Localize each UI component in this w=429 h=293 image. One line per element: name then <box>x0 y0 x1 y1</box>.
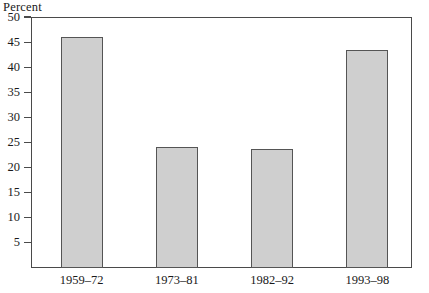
tick-mark <box>24 242 31 243</box>
tick-mark <box>24 92 31 93</box>
x-axis-tick-label: 1993–98 <box>307 272 427 289</box>
tick-mark <box>24 142 31 143</box>
tick-mark <box>24 42 31 43</box>
tick-mark <box>24 117 31 118</box>
y-axis-tick-label: 30 <box>8 109 21 126</box>
y-axis-tick-label: 20 <box>8 159 21 176</box>
y-axis-tick-label: 5 <box>14 234 20 251</box>
y-axis-tick-label: 35 <box>8 84 21 101</box>
y-axis-tick-label: 15 <box>8 184 21 201</box>
y-axis-tick-label: 50 <box>8 9 21 26</box>
y-axis-tick-label: 45 <box>8 34 21 51</box>
tick-mark <box>24 192 31 193</box>
bar-chart: Percent 5101520253035404550 1959–721973–… <box>0 0 429 293</box>
tick-mark <box>24 16 31 17</box>
y-axis-tick-label: 40 <box>8 59 21 76</box>
tick-mark <box>24 67 31 68</box>
y-axis-tick-label: 25 <box>8 134 21 151</box>
bar <box>156 147 198 268</box>
bar <box>251 149 293 268</box>
tick-mark <box>24 167 31 168</box>
y-axis-tick-label: 10 <box>8 209 21 226</box>
bar <box>61 37 103 268</box>
bar <box>346 50 388 268</box>
tick-mark <box>24 217 31 218</box>
